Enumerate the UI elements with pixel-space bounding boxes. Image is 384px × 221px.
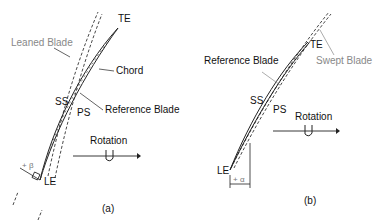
chord-label: Chord — [116, 65, 143, 76]
panel-b: + α TE Swept Blade Reference Blade SS PS… — [204, 12, 373, 206]
ss-label-a: SS — [55, 96, 69, 107]
blade-diagram: + β TE Leaned Blade Chord SS PS Referenc… — [0, 0, 384, 221]
ps-label-a: PS — [77, 107, 91, 118]
te-label-a: TE — [118, 13, 131, 24]
reference-blade-label-b: Reference Blade — [204, 55, 279, 66]
rotation-icon-a — [106, 150, 113, 161]
ps-label-b: PS — [273, 104, 287, 115]
rotation-icon-b — [305, 125, 312, 136]
caption-b: (b) — [304, 195, 316, 206]
rotation-label-a: Rotation — [90, 135, 127, 146]
le-label-b: LE — [217, 165, 230, 176]
leaned-blade-label: Leaned Blade — [11, 37, 73, 48]
angle-beta: + β — [22, 161, 34, 170]
te-label-b: TE — [310, 39, 323, 50]
reference-blade-label-a: Reference Blade — [105, 104, 180, 115]
ss-label-b: SS — [250, 95, 264, 106]
caption-a: (a) — [102, 203, 114, 214]
rotation-label-b: Rotation — [295, 111, 332, 122]
swept-blade-label: Swept Blade — [316, 55, 373, 66]
le-label-a: LE — [44, 176, 57, 187]
angle-alpha: + α — [233, 175, 245, 184]
panel-a: + β TE Leaned Blade Chord SS PS Referenc… — [11, 12, 180, 220]
